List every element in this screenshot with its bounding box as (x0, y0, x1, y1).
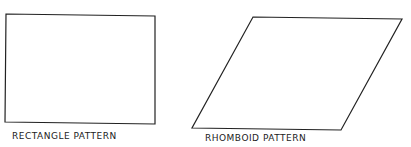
rectangle-label: RECTANGLE PATTERN (12, 131, 117, 141)
rhomboid-shape (192, 17, 402, 130)
diagram-canvas (0, 0, 411, 147)
rectangle-shape (5, 14, 155, 124)
rhomboid-label: RHOMBOID PATTERN (205, 133, 306, 143)
